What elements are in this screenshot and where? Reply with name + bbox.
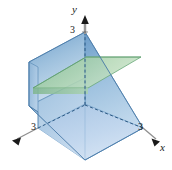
cross-section-edge-strip: [33, 88, 88, 94]
solid-body: [29, 32, 143, 160]
tick-label-y-3: 3: [70, 25, 75, 35]
arrowhead-x-icon: [152, 139, 161, 147]
axis-label-x: x: [160, 142, 165, 153]
axis-label-y: y: [72, 4, 77, 15]
arrowhead-y-icon: [81, 15, 89, 24]
axis-x-line: [143, 128, 156, 139]
figure-container: y x 3 3 3: [0, 0, 172, 170]
arrowhead-z-icon: [12, 138, 21, 146]
tick-label-x-3: 3: [138, 122, 143, 132]
solid-figure-svg: [0, 0, 172, 170]
tick-label-z-3: 3: [31, 122, 36, 132]
